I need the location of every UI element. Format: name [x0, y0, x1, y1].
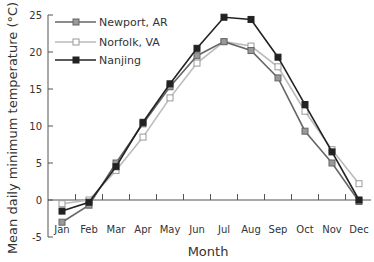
x-tick-label: Jul	[217, 224, 230, 235]
data-point-marker	[59, 219, 65, 225]
data-point-marker	[194, 60, 200, 66]
x-axis-label: Month	[188, 244, 229, 259]
data-point-marker	[221, 39, 227, 45]
data-point-marker	[302, 102, 308, 108]
legend-marker	[73, 57, 79, 63]
data-point-marker	[275, 64, 281, 70]
legend-item: Newport, AR	[55, 16, 168, 29]
x-tick-label: Apr	[134, 224, 152, 235]
legend: Newport, ARNorfolk, VANanjing	[55, 16, 168, 67]
x-tick-label: Jun	[188, 224, 205, 235]
data-point-marker	[248, 16, 254, 22]
y-axis-label: Mean daily minimum temperature (°C)	[5, 2, 20, 254]
data-point-marker	[167, 95, 173, 101]
x-tick-label: Sep	[269, 224, 288, 235]
legend-item: Nanjing	[55, 54, 141, 67]
y-tick-label: 20	[29, 47, 42, 58]
data-point-marker	[221, 14, 227, 20]
y-tick-label: 0	[36, 195, 42, 206]
data-point-marker	[329, 149, 335, 155]
data-point-marker	[140, 119, 146, 125]
x-tick-label: Nov	[322, 224, 342, 235]
y-tick-label: 15	[29, 84, 42, 95]
x-tick-label: May	[160, 224, 181, 235]
data-point-marker	[248, 48, 254, 54]
data-point-marker	[194, 53, 200, 59]
data-point-marker	[275, 75, 281, 81]
y-tick-label: -5	[32, 232, 42, 243]
y-tick-label: 25	[29, 10, 42, 21]
data-point-marker	[356, 181, 362, 187]
legend-marker	[73, 19, 79, 25]
x-tick-label: Feb	[80, 224, 98, 235]
data-point-marker	[275, 54, 281, 60]
x-tick-label: Aug	[241, 224, 261, 235]
data-point-marker	[113, 164, 119, 170]
data-point-marker	[59, 208, 65, 214]
legend-label: Nanjing	[99, 54, 141, 67]
y-tick-label: 10	[29, 121, 42, 132]
y-tick-label: 5	[36, 158, 42, 169]
data-point-marker	[86, 199, 92, 205]
data-point-marker	[194, 45, 200, 51]
legend-label: Norfolk, VA	[99, 36, 160, 49]
data-point-marker	[140, 134, 146, 140]
data-point-marker	[302, 128, 308, 134]
data-point-marker	[329, 160, 335, 166]
x-tick-label: Dec	[349, 224, 368, 235]
data-point-marker	[167, 81, 173, 87]
legend-label: Newport, AR	[99, 16, 168, 29]
legend-marker	[73, 39, 79, 45]
data-point-marker	[59, 201, 65, 207]
data-point-marker	[356, 197, 362, 203]
x-tick-label: Oct	[296, 224, 313, 235]
line-chart: -50510152025JanFebMarAprMayJunJulAugSepO…	[0, 0, 374, 262]
x-tick-label: Mar	[107, 224, 127, 235]
legend-item: Norfolk, VA	[55, 36, 160, 49]
